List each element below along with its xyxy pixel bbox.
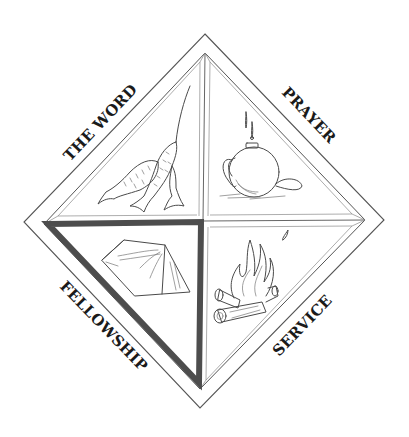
emblem-diagram: THE WORD PRAYER FELLOWSHIP SERVICE <box>0 0 409 437</box>
